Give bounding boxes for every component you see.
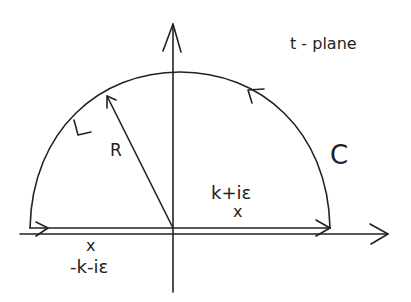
contour-label: C: [330, 142, 348, 168]
plane-label: t - plane: [290, 36, 357, 52]
contour-arc: [30, 72, 330, 228]
upper-pole-marker: x: [233, 204, 242, 220]
contour-diagram: t - plane C R k+iε x x -k-iε: [0, 0, 411, 302]
lower-pole-label: -k-iε: [70, 258, 108, 276]
radius-label: R: [110, 142, 122, 159]
imaginary-axis-arrowhead: [163, 24, 181, 52]
arc-arrowhead-left: [74, 120, 91, 135]
lower-pole-marker: x: [86, 238, 95, 254]
radius-line: [107, 96, 173, 228]
upper-pole-label: k+iε: [211, 184, 251, 202]
